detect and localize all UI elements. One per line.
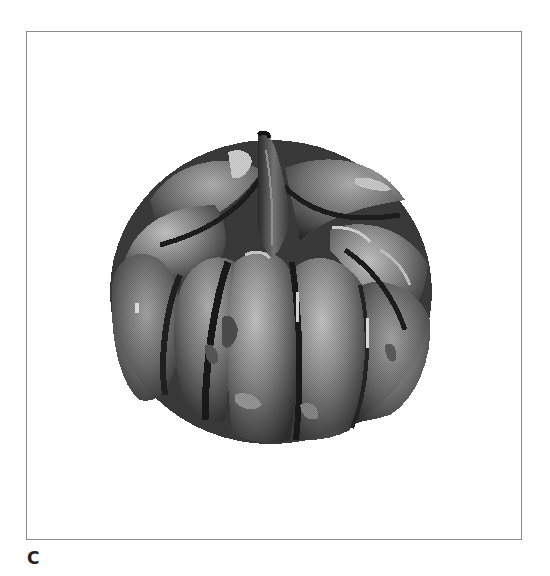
pumpkin-image: [0, 0, 550, 576]
panel-label: C: [27, 550, 39, 567]
pumpkin-body: [110, 133, 432, 444]
